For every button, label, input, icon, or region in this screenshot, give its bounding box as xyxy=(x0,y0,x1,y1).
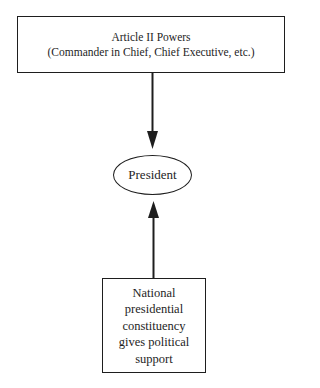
national-constituency-box: National presidential constituency gives… xyxy=(102,278,206,373)
president-label: President xyxy=(128,167,176,183)
constituency-line-5: support xyxy=(135,351,173,368)
constituency-line-3: constituency xyxy=(122,318,185,335)
constituency-line-4: gives political xyxy=(119,334,189,351)
arrow-up-to-president xyxy=(148,201,159,278)
president-node: President xyxy=(113,155,192,195)
constituency-line-2: presidential xyxy=(125,301,183,318)
arrow-down-to-president xyxy=(147,73,158,149)
constituency-line-1: National xyxy=(132,285,175,302)
